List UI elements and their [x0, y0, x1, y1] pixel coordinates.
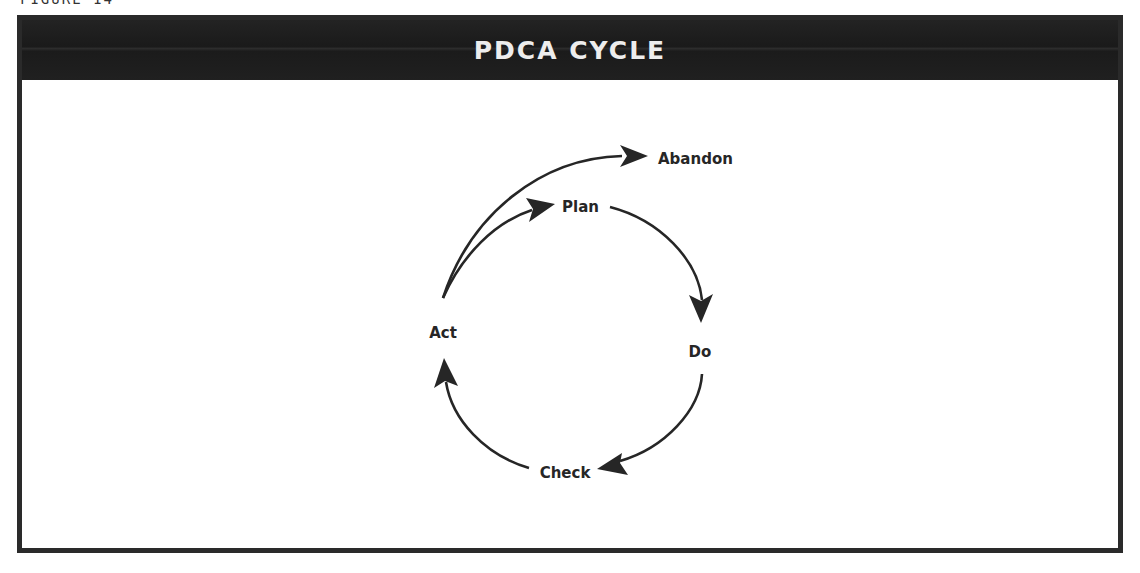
arrow-act-plan — [443, 210, 532, 298]
arrowhead-abandon-icon — [620, 145, 648, 167]
arrow-plan-do — [610, 207, 702, 300]
node-abandon: Abandon — [658, 150, 733, 168]
edge-act-to-abandon — [443, 145, 648, 298]
edge-act-to-plan — [443, 198, 555, 298]
edge-plan-to-do — [610, 207, 713, 323]
arrow-check-act — [446, 382, 529, 468]
node-check: Check — [540, 464, 592, 482]
edge-do-to-check — [597, 374, 702, 475]
node-do: Do — [689, 343, 712, 361]
edge-check-to-act — [434, 358, 529, 468]
arrowhead-check-icon — [597, 453, 628, 475]
arrow-do-check — [620, 374, 702, 461]
pdca-diagram: Abandon Plan Do Check Act — [0, 0, 1140, 573]
node-plan: Plan — [562, 198, 599, 216]
node-act: Act — [429, 324, 457, 342]
arrow-act-abandon — [443, 156, 622, 298]
